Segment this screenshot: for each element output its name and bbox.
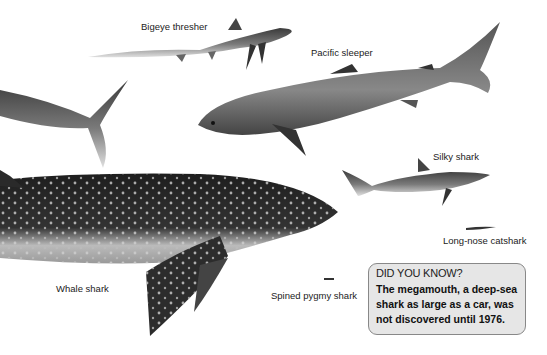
did-you-know-body: The megamouth, a deep-sea shark as large… — [376, 282, 518, 327]
label-whale-shark: Whale shark — [56, 283, 109, 294]
silky-shark — [342, 158, 490, 206]
label-pacific-sleeper: Pacific sleeper — [311, 47, 373, 58]
spined-pygmy-shark — [324, 278, 334, 280]
label-long-nose-catshark: Long-nose catshark — [443, 235, 526, 246]
did-you-know-title: DID YOU KNOW? — [376, 267, 518, 279]
label-spined-pygmy-shark: Spined pygmy shark — [271, 290, 357, 301]
long-nose-catshark — [466, 227, 496, 230]
label-bigeye-thresher: Bigeye thresher — [141, 21, 208, 32]
label-silky-shark: Silky shark — [433, 151, 479, 162]
whale-shark — [0, 170, 338, 336]
partial-shark — [0, 80, 128, 168]
did-you-know-box: DID YOU KNOW? The megamouth, a deep-sea … — [368, 263, 526, 335]
